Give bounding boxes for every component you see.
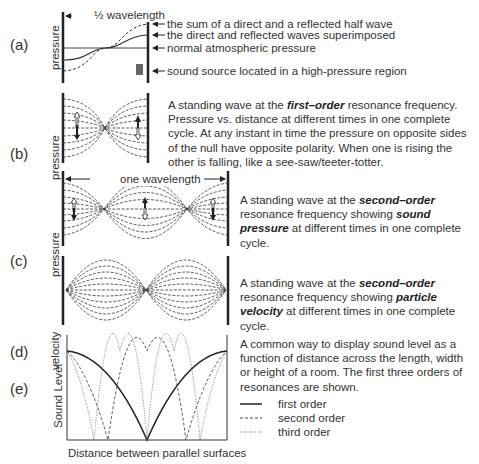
legend: first order second order third order [240, 397, 345, 439]
legend-second-order: second order [240, 411, 345, 425]
x-axis-label: Distance between parallel surfaces [68, 446, 246, 460]
legend-third-order: third order [240, 425, 345, 439]
panel-b-arrows [74, 112, 141, 140]
annotation-sound-source: sound source located in a high-pressure … [167, 64, 407, 78]
panel-e-curves [67, 333, 227, 440]
description-d: A standing wave at the second–order reso… [240, 276, 470, 333]
annotation-atmospheric: normal atmospheric pressure [167, 41, 316, 55]
half-wavelength-label: ½ wavelength [92, 8, 167, 22]
description-b: A standing wave at the first–order reson… [168, 98, 468, 169]
one-wavelength-label: one wavelength [117, 172, 204, 186]
description-c: A standing wave at the second–order reso… [240, 193, 470, 250]
panel-a-drawing [63, 12, 165, 83]
panel-d-waves [66, 260, 226, 320]
description-e: A common way to display sound level as a… [240, 337, 475, 394]
annotation-superimposed: the direct and reflected waves superimpo… [167, 28, 395, 42]
legend-first-order: first order [240, 397, 345, 411]
